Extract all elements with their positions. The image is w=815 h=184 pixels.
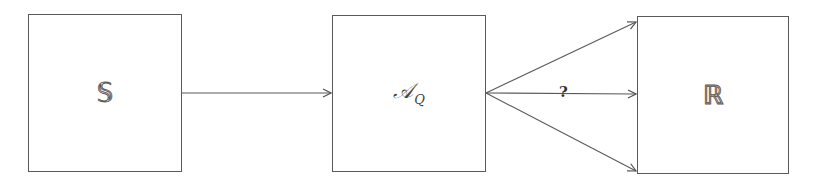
node-aq-subscript: Q [414, 92, 425, 107]
node-r-label: ℝ [703, 82, 724, 108]
edge-label-question: ? [559, 83, 568, 101]
arrow-aq-to-r-bottom [486, 93, 636, 171]
node-r: ℝ [637, 16, 789, 174]
node-aq-main: 𝒜 [393, 79, 413, 103]
node-s: 𝕊 [28, 14, 182, 172]
node-aq-label: 𝒜Q [393, 81, 425, 106]
diagram: 𝕊 𝒜Q ℝ ? [0, 0, 815, 184]
node-aq: 𝒜Q [332, 15, 486, 172]
node-s-label: 𝕊 [97, 80, 114, 106]
